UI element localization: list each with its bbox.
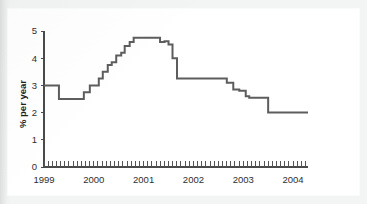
x-tick-label: 2001: [133, 174, 154, 185]
y-axis-title: % per year: [17, 80, 28, 128]
x-tick-label: 1999: [33, 174, 54, 185]
line-chart: % per year 012345 1999200020012002200320…: [8, 9, 359, 195]
chart-panel: % per year 012345 1999200020012002200320…: [8, 9, 359, 195]
x-tick-label: 2000: [83, 174, 104, 185]
y-axis-tick-labels: 012345: [32, 25, 37, 172]
page-background: % per year 012345 1999200020012002200320…: [0, 0, 367, 204]
y-tick-label: 4: [32, 53, 37, 64]
y-tick-label: 5: [32, 25, 37, 36]
y-tick-label: 0: [32, 161, 37, 172]
x-tick-label: 2002: [183, 174, 204, 185]
x-axis-tick-labels: 199920002001200220032004: [33, 174, 303, 185]
x-tick-label: 2003: [233, 174, 254, 185]
x-tick-label: 2004: [282, 174, 303, 185]
y-tick-label: 1: [32, 134, 37, 145]
x-axis-minor-ticks: [44, 161, 306, 167]
plot-area: % per year 012345 1999200020012002200320…: [8, 9, 359, 195]
y-tick-label: 2: [32, 107, 37, 118]
y-tick-label: 3: [32, 80, 37, 91]
data-series-policy-rate: [44, 38, 308, 113]
